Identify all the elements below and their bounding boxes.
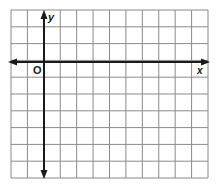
x-axis-label: x <box>197 66 203 76</box>
coordinate-grid <box>0 0 216 189</box>
y-axis-up-arrow-icon <box>41 10 48 19</box>
origin-label: O <box>33 65 42 76</box>
x-axis-left-arrow-icon <box>8 59 17 66</box>
grid-lines <box>11 10 208 178</box>
y-axis-label: y <box>48 12 54 23</box>
